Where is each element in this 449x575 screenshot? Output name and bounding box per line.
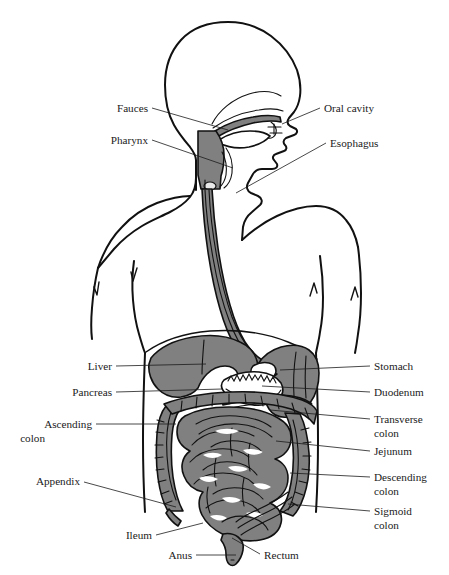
tongue-outline bbox=[219, 131, 270, 148]
leader-fauces bbox=[152, 108, 228, 130]
label-transverse-colon-line2: colon bbox=[374, 427, 399, 439]
label-sigmoid-colon-line2: colon bbox=[374, 519, 399, 531]
label-descending-colon-line2: colon bbox=[374, 485, 399, 497]
digestive-system-figure: Fauces Pharynx Liver Pancreas Ascending … bbox=[0, 0, 449, 575]
label-ascending-colon: Ascending bbox=[44, 418, 92, 430]
epiglottis bbox=[224, 148, 232, 188]
label-esophagus: Esophagus bbox=[330, 137, 378, 149]
abdominal-organs-group bbox=[146, 330, 319, 565]
left-torso-tick bbox=[131, 268, 137, 281]
label-jejunum: Jejunum bbox=[374, 445, 412, 457]
label-rectum: Rectum bbox=[264, 549, 299, 561]
label-pancreas: Pancreas bbox=[72, 386, 112, 398]
oral-cavity-group bbox=[198, 92, 283, 191]
right-arm-elbow-tick bbox=[351, 287, 358, 300]
label-pharynx: Pharynx bbox=[111, 134, 149, 146]
leader-sigmoid-colon bbox=[288, 504, 370, 511]
label-ascending-colon-line2: colon bbox=[20, 432, 45, 444]
left-shoulder-arm-outline bbox=[98, 196, 190, 268]
left-hip-outline bbox=[143, 353, 145, 512]
label-transverse-colon: Transverse bbox=[374, 413, 423, 425]
digestive-system-diagram: Fauces Pharynx Liver Pancreas Ascending … bbox=[0, 0, 449, 575]
leader-esophagus bbox=[236, 143, 326, 193]
right-torso-side-outline bbox=[316, 256, 323, 353]
label-sigmoid-colon: Sigmoid bbox=[374, 505, 412, 517]
leader-oral-cavity bbox=[282, 108, 320, 124]
right-torso-tick bbox=[310, 283, 317, 296]
label-oral-cavity: Oral cavity bbox=[324, 102, 374, 114]
label-fauces: Fauces bbox=[117, 102, 148, 114]
right-arm-outer-outline bbox=[355, 247, 361, 353]
label-duodenum: Duodenum bbox=[374, 386, 424, 398]
label-ileum: Ileum bbox=[126, 529, 152, 541]
label-descending-colon: Descending bbox=[374, 471, 427, 483]
label-liver: Liver bbox=[88, 360, 113, 372]
label-anus: Anus bbox=[168, 549, 192, 561]
right-shoulder-arm-outline bbox=[242, 206, 358, 247]
label-stomach: Stomach bbox=[374, 360, 414, 372]
label-appendix: Appendix bbox=[36, 475, 81, 487]
face-profile bbox=[228, 22, 300, 240]
left-arm-outer-outline bbox=[91, 268, 98, 339]
